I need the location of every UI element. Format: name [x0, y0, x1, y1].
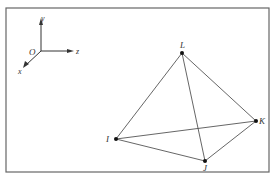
tetrahedron-diagram: y z x O L K I J — [0, 0, 272, 180]
y-axis-label: y — [40, 14, 45, 23]
x-axis-label: x — [17, 67, 22, 76]
label-K: K — [258, 116, 266, 126]
vertex-L — [180, 51, 184, 55]
vertex-I — [114, 137, 118, 141]
vertex-K — [254, 119, 258, 123]
frame-border — [6, 8, 269, 172]
label-L: L — [179, 40, 185, 50]
origin-label: O — [29, 47, 36, 57]
